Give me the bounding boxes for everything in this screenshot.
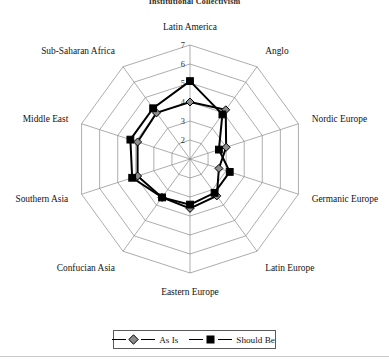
axis-spoke-4: [190, 159, 257, 251]
legend-item-should-be: Should Be: [189, 334, 277, 345]
axis-label-middle-east: Middle East: [23, 114, 69, 124]
legend-label-should-be: Should Be: [234, 335, 277, 345]
radar-axis-labels: Latin AmericaAngloNordic EuropeGermanic …: [15, 22, 378, 297]
legend-line-should-be-right: [218, 339, 232, 340]
data-point-as-is-3: [215, 164, 223, 172]
radial-scale-labels: 234567: [181, 41, 186, 145]
diamond-marker-icon: [128, 334, 139, 345]
data-point-should-be-8: [127, 136, 134, 143]
axis-label-germanic-europe: Germanic Europe: [312, 194, 378, 204]
axis-label-anglo: Anglo: [265, 46, 289, 56]
scale-tick-2: 2: [181, 136, 185, 145]
axis-label-latin-america: Latin America: [163, 22, 218, 32]
scale-tick-3: 3: [181, 117, 185, 126]
data-point-should-be-9: [150, 105, 157, 112]
data-point-should-be-6: [159, 194, 166, 201]
data-point-should-be-7: [129, 174, 136, 181]
scale-tick-7: 7: [181, 41, 185, 50]
axis-label-sub-saharan-africa: Sub-Saharan Africa: [41, 46, 116, 56]
data-point-should-be-2: [216, 146, 223, 153]
data-point-should-be-5: [187, 201, 194, 208]
data-point-should-be-3: [226, 169, 233, 176]
data-point-as-is-0: [186, 98, 194, 106]
legend-label-as-is: As Is: [157, 335, 180, 345]
axis-label-nordic-europe: Nordic Europe: [312, 114, 367, 124]
chart-legend: As Is Should Be: [113, 330, 276, 349]
axis-label-latin-europe: Latin Europe: [265, 263, 314, 273]
footer-divider: [0, 356, 389, 357]
axis-label-confucian-asia: Confucian Asia: [57, 263, 116, 273]
data-point-should-be-4: [211, 189, 218, 196]
legend-line-as-is-right: [141, 339, 155, 340]
square-marker-icon: [205, 334, 216, 345]
scale-tick-6: 6: [181, 60, 185, 69]
legend-line-as-is: [112, 339, 126, 340]
legend-item-as-is: As Is: [112, 334, 180, 345]
legend-line-should-be: [189, 339, 203, 340]
data-point-should-be-0: [187, 78, 194, 85]
data-point-as-is-2: [222, 143, 230, 151]
axis-label-eastern-europe: Eastern Europe: [161, 287, 219, 297]
axis-label-southern-asia: Southern Asia: [15, 194, 69, 204]
data-point-should-be-1: [219, 111, 226, 118]
radar-plot-area: 234567 Latin AmericaAngloNordic EuropeGe…: [0, 0, 389, 362]
radar-chart-figure: Institutional Collectivism 234567 Latin …: [0, 0, 389, 362]
